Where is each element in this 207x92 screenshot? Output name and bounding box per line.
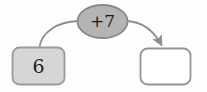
input-to-operation-connector: [40, 21, 79, 48]
operation-to-output-connector: [127, 21, 162, 45]
input-value: 6: [32, 55, 44, 77]
output-box[interactable]: [141, 49, 191, 85]
function-machine-diagram: 6 +7: [0, 0, 207, 92]
operation-label: +7: [90, 11, 115, 31]
diagram-canvas: 6 +7: [0, 0, 207, 92]
